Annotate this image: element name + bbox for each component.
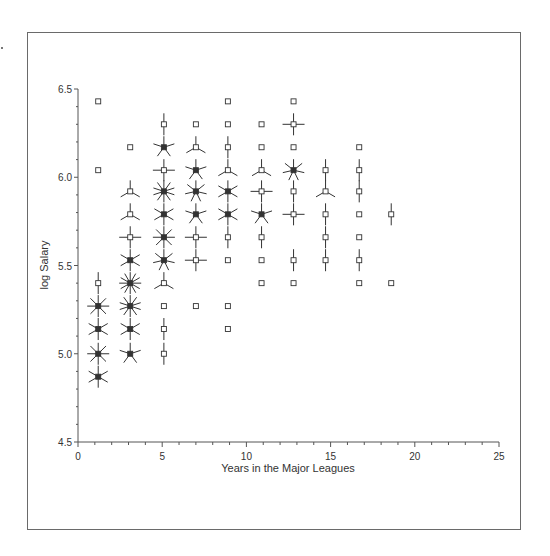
sunflower-marker — [185, 159, 206, 179]
sunflower-marker — [251, 180, 273, 202]
sunflower-marker — [357, 159, 362, 181]
sunflower-marker — [323, 159, 328, 181]
point-marker — [357, 212, 362, 217]
sunflower-marker — [283, 203, 305, 225]
point-marker — [357, 281, 362, 286]
sunflower-marker — [87, 295, 109, 317]
y-tick-label: 6.0 — [58, 172, 72, 183]
sunflower-marker — [291, 180, 296, 202]
sunflower-marker — [225, 136, 230, 158]
sunflower-marker — [218, 180, 237, 202]
x-axis-title: Years in the Major Leagues — [221, 462, 355, 474]
point-marker — [389, 281, 394, 286]
sunflower-marker — [121, 249, 140, 271]
point-marker — [225, 327, 230, 332]
sunflower-marker — [389, 203, 394, 225]
point-marker — [225, 304, 230, 309]
sunflower-marker — [357, 180, 362, 202]
sunflower-marker — [153, 136, 174, 156]
sunflower-marker — [283, 159, 304, 180]
y-axis-title: log Salary — [38, 240, 50, 289]
sunflower-marker — [120, 343, 141, 363]
point-marker — [161, 304, 166, 309]
point-marker — [259, 145, 264, 150]
point-marker — [128, 145, 133, 150]
sunflower-marker — [185, 249, 207, 271]
sunflower-marker — [185, 203, 206, 223]
sunflower-marker — [185, 226, 207, 248]
sunflower-marker — [323, 249, 328, 271]
sunflower-marker — [121, 203, 140, 220]
sunflower-marker — [291, 249, 296, 271]
x-tick-label: 0 — [75, 451, 81, 462]
sunflower-marker — [119, 272, 141, 294]
sunflower-marker — [218, 203, 237, 225]
y-tick-label: 5.5 — [58, 261, 72, 272]
point-marker — [291, 145, 296, 150]
point-marker — [357, 235, 362, 240]
sunflower-plot: 05101520254.55.05.56.06.5 Years in the M… — [0, 0, 550, 556]
y-tick-label: 5.0 — [58, 349, 72, 360]
sunflower-marker — [259, 226, 264, 248]
data-points — [87, 99, 394, 388]
sunflower-marker — [96, 272, 101, 294]
sunflower-marker — [120, 295, 141, 317]
point-marker — [96, 99, 101, 104]
sunflower-marker — [121, 318, 140, 340]
sunflower-marker — [119, 226, 141, 248]
sunflower-marker — [357, 249, 362, 271]
y-tick-label: 6.5 — [58, 84, 72, 95]
sunflower-marker — [89, 366, 108, 388]
point-marker — [291, 99, 296, 104]
x-tick-label: 15 — [325, 451, 337, 462]
sunflower-marker — [154, 203, 173, 225]
sunflower-marker — [225, 226, 230, 248]
point-marker — [259, 258, 264, 263]
x-tick-label: 10 — [241, 451, 253, 462]
point-marker — [259, 281, 264, 286]
sunflower-marker — [251, 203, 272, 223]
sunflower-marker — [185, 180, 206, 201]
point-marker — [225, 258, 230, 263]
sunflower-marker — [218, 159, 237, 176]
sunflower-marker — [89, 318, 108, 340]
x-tick-label: 25 — [493, 451, 505, 462]
sunflower-marker — [153, 159, 175, 181]
x-tick-label: 20 — [409, 451, 421, 462]
point-marker — [225, 99, 230, 104]
point-marker — [193, 304, 198, 309]
sunflower-marker — [323, 203, 328, 225]
point-marker — [96, 168, 101, 173]
point-marker — [291, 281, 296, 286]
x-tick-label: 5 — [159, 451, 165, 462]
sunflower-marker — [316, 180, 335, 197]
y-tick-label: 4.5 — [58, 437, 72, 448]
point-marker — [193, 122, 198, 127]
sunflower-marker — [153, 249, 174, 270]
sunflower-marker — [161, 343, 166, 365]
sunflower-marker — [87, 343, 109, 365]
sunflower-marker — [161, 318, 166, 340]
point-marker — [225, 122, 230, 127]
sunflower-marker — [252, 159, 271, 176]
sunflower-marker — [161, 113, 166, 135]
sunflower-marker — [323, 226, 328, 248]
sunflower-marker — [153, 180, 174, 202]
sunflower-marker — [283, 113, 305, 135]
point-marker — [259, 122, 264, 127]
axes: 05101520254.55.05.56.06.5 — [58, 84, 505, 462]
sunflower-marker — [154, 272, 173, 289]
sunflower-marker — [121, 180, 140, 197]
sunflower-marker — [153, 226, 175, 248]
point-marker — [357, 145, 362, 150]
sunflower-marker — [186, 136, 205, 153]
